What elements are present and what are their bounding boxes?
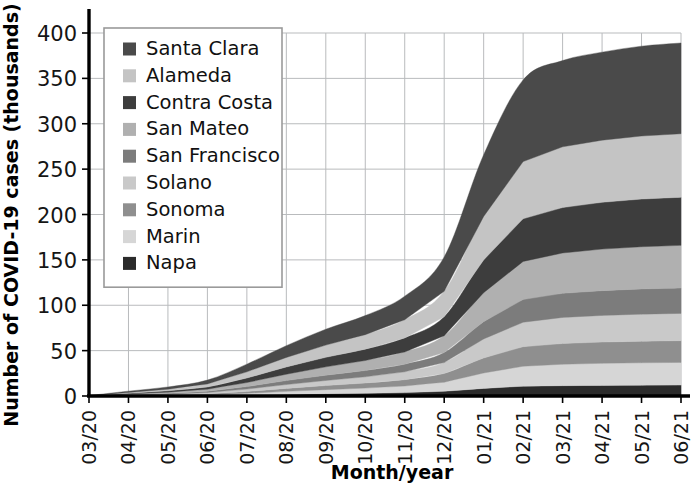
legend-swatch [123, 203, 136, 216]
y-tick-label: 0 [64, 385, 77, 409]
legend-swatch [123, 257, 136, 270]
legend-swatch [123, 230, 136, 243]
x-tick-label: 06/21 [670, 410, 692, 465]
y-tick-label: 50 [50, 340, 77, 364]
x-tick-label: 03/21 [552, 410, 574, 465]
legend-label: Alameda [146, 64, 232, 87]
x-tick-label: 03/20 [78, 410, 100, 465]
x-tick-label: 02/21 [512, 410, 534, 465]
legend-label: Contra Costa [146, 91, 273, 114]
x-tick-label: 04/20 [117, 410, 139, 465]
chart-container: 050100150200250300350400 03/2004/2005/20… [0, 0, 695, 488]
legend-swatch [123, 69, 136, 82]
y-tick-label: 350 [37, 67, 77, 91]
x-tick-label: 01/21 [473, 410, 495, 465]
y-tick-label: 250 [37, 158, 77, 182]
legend-swatch [123, 123, 136, 136]
x-tick-label: 12/20 [433, 410, 455, 465]
legend-label: Napa [146, 251, 197, 274]
chart-legend: Santa ClaraAlamedaContra CostaSan MateoS… [104, 28, 282, 287]
legend-item-contra-costa[interactable]: Contra Costa [123, 91, 273, 114]
x-tick-label: 07/20 [236, 410, 258, 465]
y-tick-label: 400 [37, 22, 77, 46]
legend-label: Solano [146, 171, 212, 194]
legend-item-san-francisco[interactable]: San Francisco [123, 144, 280, 167]
legend-swatch [123, 150, 136, 163]
legend-label: Sonoma [146, 198, 226, 221]
x-tick-label: 04/21 [591, 410, 613, 465]
legend-label: Santa Clara [146, 37, 259, 60]
x-tick-label: 05/21 [631, 410, 653, 465]
y-axis-title: Number of COVID-19 cases (thousands) [0, 3, 22, 426]
x-tick-label: 11/20 [394, 410, 416, 465]
legend-label: San Francisco [146, 144, 280, 167]
x-tick-label: 05/20 [157, 410, 179, 465]
y-tick-label: 150 [37, 249, 77, 273]
x-tick-label: 08/20 [275, 410, 297, 465]
x-axis-title: Month/year [331, 461, 454, 483]
stacked-area-chart: 050100150200250300350400 03/2004/2005/20… [0, 0, 695, 488]
legend-swatch [123, 177, 136, 190]
x-tick-label: 10/20 [354, 410, 376, 465]
legend-label: Marin [146, 225, 201, 248]
legend-swatch [123, 43, 136, 56]
y-tick-label: 100 [37, 294, 77, 318]
x-tick-label: 06/20 [196, 410, 218, 465]
legend-label: San Mateo [146, 117, 249, 140]
x-tick-label: 09/20 [315, 410, 337, 465]
legend-swatch [123, 96, 136, 109]
y-tick-label: 300 [37, 113, 77, 137]
y-tick-label: 200 [37, 204, 77, 228]
